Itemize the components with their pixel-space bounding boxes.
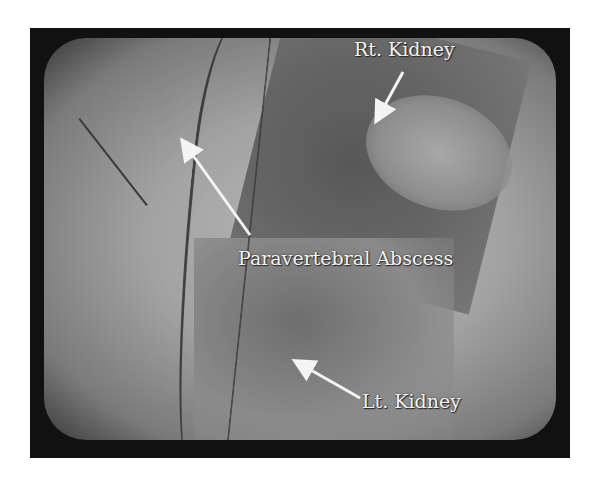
annotation-arrows xyxy=(0,0,600,484)
rt-kidney-arrow-icon xyxy=(380,72,403,114)
label-paravertebral-abscess: Paravertebral Abscess xyxy=(238,247,453,269)
label-rt-kidney: Rt. Kidney xyxy=(354,38,455,60)
abscess-arrow-icon xyxy=(187,147,250,235)
lt-kidney-arrow-icon xyxy=(302,365,360,398)
label-lt-kidney: Lt. Kidney xyxy=(362,390,461,412)
